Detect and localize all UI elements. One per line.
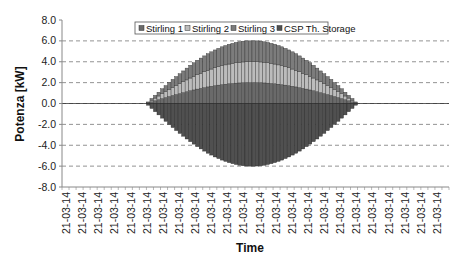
y-tick-label: 0.0: [41, 97, 56, 109]
bar-segment: [329, 95, 333, 103]
bar-segment: [213, 68, 217, 86]
bar-segment: [347, 98, 351, 101]
y-tick-label: -8.0: [38, 181, 56, 193]
bar-segment: [231, 83, 235, 103]
bar-segment: [196, 104, 200, 147]
legend-label: Stirling 3: [238, 23, 275, 34]
bar-segment: [203, 104, 207, 152]
bar-segment: [245, 41, 249, 62]
legend: Stirling 1Stirling 2Stirling 3CSP Th. St…: [135, 22, 355, 34]
bar-segment: [270, 63, 274, 83]
bar-segment: [164, 92, 168, 98]
bar-segment: [294, 104, 298, 154]
bar-segment: [206, 54, 210, 71]
bar-segment: [245, 83, 249, 104]
bar-segment: [301, 104, 305, 149]
bar-segment: [234, 83, 238, 103]
x-tick-label: 21-03-14: [318, 192, 330, 234]
bar-segment: [153, 101, 157, 104]
bar-segment: [234, 42, 238, 62]
legend-swatch: [139, 26, 144, 31]
bar-segment: [185, 68, 189, 80]
bar-segment: [178, 94, 182, 104]
bar-segment: [280, 66, 284, 85]
bar-segment: [213, 104, 217, 157]
bar-segment: [175, 86, 179, 95]
bar-segment: [315, 68, 319, 80]
bar-segment: [168, 97, 172, 104]
bar-segment: [210, 86, 214, 103]
x-tick-label: 21-03-14: [76, 192, 88, 234]
bar-segment: [150, 98, 154, 100]
bar-segment: [153, 95, 157, 98]
bar-segment: [284, 48, 288, 66]
bar-segment: [199, 88, 203, 103]
bar-segment: [241, 41, 245, 62]
x-tick-label: 21-03-14: [431, 192, 443, 234]
bar-segment: [343, 96, 347, 100]
bar-segment: [336, 104, 340, 122]
x-tick-label: 21-03-14: [92, 192, 104, 234]
bar-segment: [227, 104, 231, 163]
bar-segment: [161, 99, 165, 104]
bar-segment: [259, 104, 263, 166]
bar-segment: [308, 90, 312, 104]
bar-segment: [273, 44, 277, 64]
bar-segment: [196, 60, 200, 74]
x-tick-label: 21-03-14: [189, 192, 201, 234]
bar-segment: [308, 63, 312, 77]
bar-segment: [168, 104, 172, 125]
bar-segment: [199, 73, 203, 88]
bar-segment: [273, 104, 277, 163]
bar-segment: [259, 41, 263, 62]
bar-segment: [256, 104, 260, 167]
bar-segment: [175, 77, 179, 86]
x-tick-labels: 21-03-1421-03-1421-03-1421-03-1421-03-14…: [60, 187, 449, 234]
bar-segment: [192, 90, 196, 104]
x-tick-label: 21-03-14: [173, 192, 185, 234]
bar-segment: [322, 74, 326, 84]
x-tick-label: 21-03-14: [254, 192, 266, 234]
x-tick-label: 21-03-14: [270, 192, 282, 234]
bar-segment: [294, 54, 298, 71]
bar-segment: [280, 85, 284, 104]
bar-segment: [252, 62, 256, 83]
bar-segment: [231, 63, 235, 83]
chart: 8.06.04.02.00.0-2.0-4.0-6.0-8.0 21-03-14…: [0, 0, 463, 260]
legend-swatch: [185, 26, 190, 31]
bar-segment: [305, 75, 309, 89]
bar-segment: [224, 46, 228, 65]
bar-segment: [263, 62, 267, 83]
y-tick-label: -4.0: [38, 139, 56, 151]
bar-segment: [277, 65, 281, 84]
bar-segment: [294, 70, 298, 87]
bar-segment: [150, 104, 154, 109]
y-tick-label: 8.0: [41, 14, 56, 26]
bar-segment: [161, 89, 165, 94]
bar-segment: [213, 50, 217, 68]
bar-segment: [333, 104, 337, 125]
x-tick-label: 21-03-14: [350, 192, 362, 234]
y-axis-title: Potenza [kW]: [13, 66, 27, 141]
x-tick-label: 21-03-14: [108, 192, 120, 234]
bar-segment: [284, 104, 288, 159]
bar-segment: [178, 74, 182, 84]
bar-segment: [175, 104, 179, 131]
bar-segment: [164, 98, 168, 104]
x-tick-label: 21-03-14: [60, 192, 72, 234]
bar-segment: [161, 94, 165, 99]
bar-segment: [305, 89, 309, 103]
bar-segment: [343, 100, 347, 104]
bar-segment: [301, 58, 305, 73]
bar-segment: [336, 98, 340, 104]
bar-segment: [340, 94, 344, 99]
bar-segment: [213, 86, 217, 104]
bar-segment: [189, 104, 193, 142]
bar-segment: [319, 71, 323, 82]
bar-segment: [206, 70, 210, 87]
bar-segment: [298, 72, 302, 88]
bar-segment: [157, 100, 161, 104]
bar-segment: [210, 104, 214, 156]
bar-segment: [305, 104, 309, 147]
bar-segment: [157, 92, 161, 96]
